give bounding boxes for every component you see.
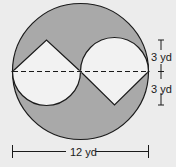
vertical-dimension: [158, 40, 164, 105]
lower-radius-label: 3 yd: [151, 83, 172, 95]
diameter-label: 12 yd: [70, 146, 97, 158]
upper-radius-label: 3 yd: [151, 51, 172, 63]
geometry-diagram: 3 yd 3 yd 12 yd: [0, 0, 176, 167]
